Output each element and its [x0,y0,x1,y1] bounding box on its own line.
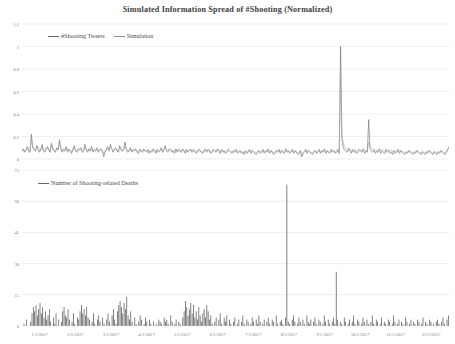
legend-label: Number of Shooting-related Deaths [51,180,138,186]
y-axis-tick-label: 15 [14,292,19,297]
x-axis-tick-label: 3/1/2017 [103,332,119,337]
y-axis-tick-label: 0.6 [13,89,19,94]
x-axis-tick-label: 10/1/2017 [351,332,370,337]
y-axis-tick-label: 0 [17,323,19,328]
x-axis-tick-label: 12/1/2017 [422,332,441,337]
y-axis-tick-label: 60 [14,199,19,204]
y-axis-tick-label: 75 [14,168,19,173]
y-axis-tick-label: 0.2 [13,134,19,139]
y-axis-tick-label: 45 [14,230,19,235]
x-axis-tick-label: 1/1/2017 [32,332,48,337]
bottom-chart-svg [22,168,449,330]
legend-item-shooting-tweets: #Shooting Tweets [48,33,105,39]
line-swatch-icon [38,183,49,184]
y-axis-tick-label: 1 [17,44,19,49]
legend-item-deaths: Number of Shooting-related Deaths [38,180,138,186]
y-axis-tick-label: 0.4 [13,112,19,117]
y-axis-tick-label: 30 [14,261,19,266]
y-axis-tick-label: 0.8 [13,67,19,72]
top-chart-panel: 00.20.40.60.811.2 #Shooting Tweets Simul… [0,22,455,167]
x-axis-tick-label: 7/1/2017 [245,332,261,337]
x-axis-tick-label: 6/1/2017 [210,332,226,337]
line-swatch-icon [114,36,125,37]
line-swatch-icon [48,36,59,37]
x-axis-tick-label: 8/1/2017 [281,332,297,337]
x-axis-tick-label: 2/1/2017 [67,332,83,337]
page-title: Simulated Information Spread of #Shootin… [0,5,455,14]
y-axis-tick-label: 1.2 [13,21,19,26]
legend-label: Simulation [127,33,154,39]
x-axis-tick-label: 9/1/2017 [316,332,332,337]
top-chart-svg [22,22,449,167]
bottom-chart-panel: 01530456075 1/1/20172/1/20173/1/20174/1/… [0,168,455,344]
top-plot-area [22,22,449,167]
x-axis-tick-label: 5/1/2017 [174,332,190,337]
x-axis-labels: 1/1/20172/1/20173/1/20174/1/20175/1/2017… [22,330,449,344]
legend-label: #Shooting Tweets [61,33,105,39]
top-chart-legend: #Shooting Tweets Simulation [48,33,153,39]
bottom-plot-area [22,168,449,330]
y-axis-tick-label: 0 [17,157,19,162]
x-axis-tick-label: 4/1/2017 [138,332,154,337]
bottom-chart-legend: Number of Shooting-related Deaths [38,180,138,186]
x-axis-tick-label: 11/1/2017 [386,332,404,337]
chart-page: Simulated Information Spread of #Shootin… [0,0,455,344]
legend-item-simulation: Simulation [114,33,154,39]
